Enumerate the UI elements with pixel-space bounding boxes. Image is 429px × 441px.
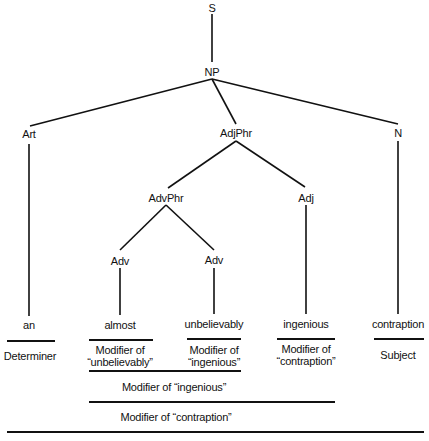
rule-almost <box>89 339 153 341</box>
node-adv-1: Adv <box>111 255 129 267</box>
node-adjphr: AdjPhr <box>220 127 252 139</box>
rule-contraption <box>374 338 424 340</box>
word-unbelievably: unbelievably <box>185 318 244 330</box>
word-ingenious: ingenious <box>283 318 328 330</box>
function-ingenious: Modifier of “contraption” <box>276 343 335 367</box>
node-n: N <box>394 127 402 139</box>
function-almost-line2: “unbelievably” <box>87 356 153 368</box>
rule-advphr <box>89 370 241 372</box>
function-almost: Modifier of “unbelievably” <box>87 344 153 368</box>
rule-an <box>7 340 55 342</box>
word-an: an <box>23 319 35 331</box>
rule-adjphr <box>89 401 335 403</box>
function-unbelievably-line2: “ingenious” <box>188 356 240 368</box>
rule-bottom <box>7 431 424 433</box>
rule-unbelievably <box>187 338 241 340</box>
function-unbelievably-line1: Modifier of <box>188 344 240 356</box>
node-adj: Adj <box>298 192 313 204</box>
function-ingenious-line2: “contraption” <box>276 355 335 367</box>
word-contraption: contraption <box>372 318 424 330</box>
word-almost: almost <box>104 319 135 331</box>
node-adv-2: Adv <box>205 254 223 266</box>
function-subject: Subject <box>380 349 415 361</box>
function-unbelievably: Modifier of “ingenious” <box>188 344 240 368</box>
function-determiner: Determiner <box>4 350 56 362</box>
node-s: S <box>208 2 215 14</box>
function-adjphr: Modifier of “contraption” <box>120 411 231 423</box>
node-art: Art <box>22 128 35 140</box>
node-advphr: AdvPhr <box>149 192 184 204</box>
function-advphr: Modifier of “ingenious” <box>122 381 226 393</box>
function-almost-line1: Modifier of <box>87 344 153 356</box>
rule-ingenious <box>277 338 335 340</box>
function-ingenious-line1: Modifier of <box>276 343 335 355</box>
node-np: NP <box>205 66 220 78</box>
